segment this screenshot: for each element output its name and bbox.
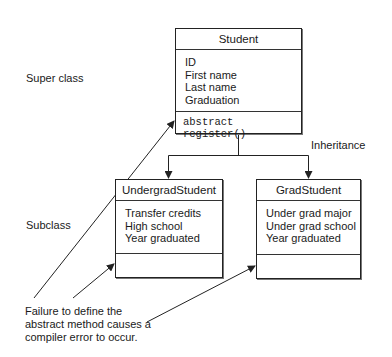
class-grad-attributes: Under grad major Under grad school Year … xyxy=(257,201,360,255)
attribute: ID xyxy=(185,56,301,69)
class-grad-methods xyxy=(257,255,360,259)
attribute: Under grad major xyxy=(266,207,360,220)
note-arrow-to-undergrad xyxy=(73,264,114,298)
class-student-attributes: ID First name Last name Graduation xyxy=(176,50,301,112)
attribute: Transfer credits xyxy=(125,207,222,220)
attribute: Graduation xyxy=(185,94,301,107)
class-student-methods: abstract register() xyxy=(176,112,301,140)
class-student-name: Student xyxy=(176,29,301,50)
super-class-label: Super class xyxy=(26,72,83,85)
attribute: Last name xyxy=(185,81,301,94)
class-grad-student: GradStudent Under grad major Under grad … xyxy=(256,179,361,279)
note-line: abstract method causes a xyxy=(25,318,151,331)
annotation-note: Failure to define the abstract method ca… xyxy=(25,305,151,344)
note-line: Failure to define the xyxy=(25,305,151,318)
class-undergrad-attributes: Transfer credits High school Year gradua… xyxy=(116,201,222,254)
class-undergrad-student: UndergradStudent Transfer credits High s… xyxy=(115,179,223,278)
inheritance-label: Inheritance xyxy=(311,139,365,152)
attribute: Year graduated xyxy=(266,232,360,245)
method: abstract register() xyxy=(183,116,301,140)
inheritance-connector xyxy=(169,134,309,178)
class-student: Student ID First name Last name Graduati… xyxy=(175,28,302,134)
note-line: compiler error to occur. xyxy=(25,331,151,344)
attribute: Year graduated xyxy=(125,232,222,245)
class-undergrad-name: UndergradStudent xyxy=(116,180,222,201)
attribute: First name xyxy=(185,69,301,82)
attribute: High school xyxy=(125,220,222,233)
class-undergrad-methods xyxy=(116,254,222,258)
class-grad-name: GradStudent xyxy=(257,180,360,201)
subclass-label: Subclass xyxy=(26,219,71,232)
attribute: Under grad school xyxy=(266,220,360,233)
